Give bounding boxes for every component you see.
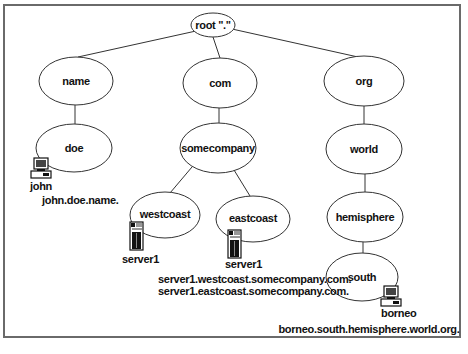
node-south-label: south [348,271,377,283]
node-hemisphere-label: hemisphere [336,211,395,223]
node-doe-label: doe [65,142,84,154]
node-name: name [39,57,113,105]
desktop-computer-icon [31,158,51,178]
node-somecompany-label: somecompany [181,142,256,154]
desktop-computer-icon [381,286,401,306]
fqdn-john: john.doe.name. [41,194,119,206]
node-world: world [326,124,402,174]
host-server1-east-label: server1 [225,258,262,270]
fqdn-server1-east: server1.eastcoast.somecompany.com. [158,285,349,297]
node-org: org [324,56,404,106]
fqdn-borneo: borneo.south.hemisphere.world.org. [278,323,459,335]
node-name-label: name [62,75,90,87]
node-somecompany: somecompany [180,123,256,173]
node-root: root "." [191,13,235,37]
node-world-label: world [349,143,378,155]
node-eastcoast: eastcoast [216,196,290,242]
node-com: com [183,58,257,108]
node-eastcoast-label: eastcoast [229,212,278,224]
host-server1-west-label: server1 [122,253,159,265]
fqdn-server1-west: server1.westcoast.somecompany.com. [158,273,351,285]
node-org-label: org [356,75,373,87]
server-tower-icon [130,222,143,250]
dns-tree-diagram: root "." name com org doe somecompany wo… [0,0,468,354]
node-hemisphere: hemisphere [327,192,403,242]
node-com-label: com [209,77,231,89]
host-borneo-label: borneo [381,307,417,319]
host-john-label: john [29,180,53,192]
node-westcoast-label: westcoast [139,208,191,220]
node-root-label: root "." [195,19,231,31]
server-tower-icon [228,230,241,258]
